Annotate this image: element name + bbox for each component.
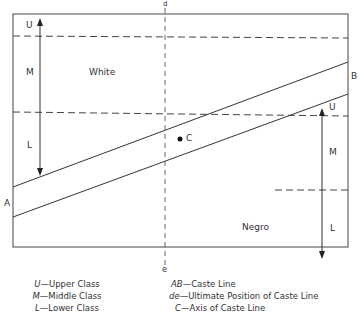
label-a: A: [4, 199, 10, 208]
label-c: C: [186, 134, 192, 143]
label-white-middle: M: [26, 68, 34, 77]
label-b: B: [351, 72, 357, 81]
label-white-lower: L: [27, 141, 32, 150]
legend-item: L—Lower Class: [29, 302, 105, 314]
axis-point-c: [178, 137, 183, 142]
label-e: e: [162, 266, 167, 274]
legend-classes: U—Upper Class M—Middle Class L—Lower Cla…: [29, 278, 105, 314]
label-white: White: [89, 68, 115, 77]
label-white-upper: U: [26, 21, 33, 30]
label-negro-middle: M: [329, 148, 337, 157]
legend-item: M—Middle Class: [29, 290, 105, 302]
legend-item: AB—Caste Line: [169, 278, 318, 290]
label-d: d: [163, 1, 167, 8]
legend-item: C—Axis of Caste Line: [169, 302, 318, 314]
legend-item: U—Upper Class: [29, 278, 105, 290]
diagram-frame: [13, 14, 348, 247]
legend-lines: AB—Caste Line de—Ultimate Position of Ca…: [169, 278, 318, 314]
label-negro: Negro: [242, 223, 269, 232]
label-negro-lower: L: [330, 224, 335, 233]
legend-item: de—Ultimate Position of Caste Line: [169, 290, 318, 302]
caste-line-upper: [13, 62, 348, 187]
white-upper-boundary: [13, 36, 348, 38]
label-negro-upper: U: [329, 103, 336, 112]
caste-class-diagram: [0, 0, 360, 318]
